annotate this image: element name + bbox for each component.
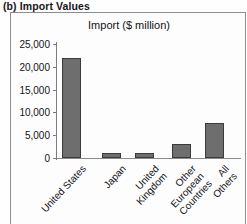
bar bbox=[205, 123, 224, 158]
y-tick-mark bbox=[53, 135, 57, 136]
chart-title: Import ($ million) bbox=[11, 19, 247, 31]
x-tick-label: United States bbox=[39, 163, 88, 214]
bar bbox=[135, 153, 154, 158]
y-tick-mark bbox=[53, 112, 57, 113]
y-tick-mark bbox=[53, 158, 57, 159]
y-tick-label: 5,000 bbox=[25, 130, 50, 141]
x-tick-label: United Kingdom bbox=[126, 163, 169, 207]
figure-caption: (b) Import Values bbox=[3, 0, 90, 12]
y-tick-label: 10,000 bbox=[19, 107, 50, 118]
x-tick-label: All Others bbox=[203, 163, 240, 200]
y-tick-label: 25,000 bbox=[19, 39, 50, 50]
bar bbox=[172, 144, 191, 158]
chart-frame: Import ($ million) 05,00010,00015,00020,… bbox=[10, 12, 246, 224]
y-tick-mark bbox=[53, 67, 57, 68]
bar bbox=[62, 58, 81, 158]
plot-area: 05,00010,00015,00020,00025,000 United St… bbox=[57, 44, 241, 158]
y-tick-mark bbox=[53, 90, 57, 91]
x-axis-line bbox=[56, 158, 241, 159]
x-tick-label: Other European Countries bbox=[160, 163, 214, 217]
y-axis-line bbox=[56, 42, 57, 160]
y-tick-label: 20,000 bbox=[19, 61, 50, 72]
x-tick-label: Japan bbox=[101, 163, 128, 190]
y-tick-label: 15,000 bbox=[19, 84, 50, 95]
y-tick-label: 0 bbox=[44, 153, 50, 164]
bar bbox=[102, 153, 121, 158]
y-tick-mark bbox=[53, 44, 57, 45]
figure: (b) Import Values Import ($ million) 05,… bbox=[0, 0, 247, 224]
